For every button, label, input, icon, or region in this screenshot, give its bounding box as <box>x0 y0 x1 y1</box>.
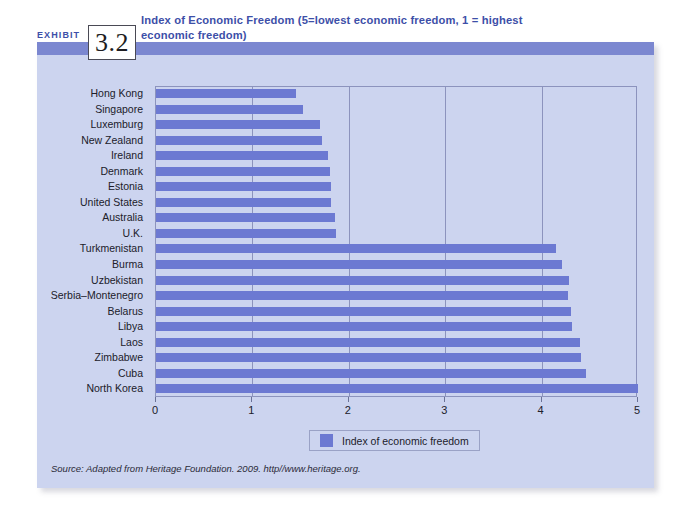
bar-row <box>156 320 636 336</box>
bar-row <box>156 258 636 274</box>
bar <box>156 120 320 129</box>
bar <box>156 276 569 285</box>
bar-row <box>156 274 636 290</box>
category-label: Belarus <box>37 304 149 320</box>
bar-row <box>156 367 636 383</box>
bar <box>156 322 572 331</box>
bar <box>156 307 571 316</box>
category-label: Hong Kong <box>37 86 149 102</box>
exhibit-panel: Hong KongSingaporeLuxemburgNew ZealandIr… <box>37 42 654 488</box>
bar <box>156 151 328 160</box>
category-label: Australia <box>37 210 149 226</box>
x-axis: 012345 <box>155 397 637 423</box>
category-label: Laos <box>37 335 149 351</box>
bar-rows <box>156 87 636 396</box>
x-tick-mark <box>541 397 542 402</box>
bar <box>156 384 638 393</box>
category-label: Serbia–Montenegro <box>37 288 149 304</box>
bar <box>156 229 336 238</box>
bar <box>156 353 581 362</box>
bar-row <box>156 242 636 258</box>
bar-row <box>156 165 636 181</box>
exhibit-number-text: 3.2 <box>95 30 129 56</box>
bar <box>156 105 303 114</box>
bar <box>156 260 562 269</box>
category-label: Cuba <box>37 366 149 382</box>
bar <box>156 338 580 347</box>
bar-row <box>156 134 636 150</box>
bar-row <box>156 149 636 165</box>
chart-title: Index of Economic Freedom (5=lowest econ… <box>141 13 561 43</box>
x-tick-mark <box>155 397 156 402</box>
exhibit-number-badge: 3.2 <box>88 25 136 60</box>
category-label: U.K. <box>37 226 149 242</box>
x-tick-mark <box>444 397 445 402</box>
bar <box>156 198 331 207</box>
bar-row <box>156 289 636 305</box>
legend-swatch-icon <box>320 434 333 447</box>
category-label: Estonia <box>37 179 149 195</box>
x-tick-label: 0 <box>152 404 158 416</box>
bar-row <box>156 103 636 119</box>
x-tick-label: 3 <box>441 404 447 416</box>
bar <box>156 244 556 253</box>
bar-row <box>156 305 636 321</box>
category-label: Turkmenistan <box>37 241 149 257</box>
category-axis-labels: Hong KongSingaporeLuxemburgNew ZealandIr… <box>37 86 149 397</box>
bar <box>156 167 330 176</box>
category-label: Uzbekistan <box>37 273 149 289</box>
bar-row <box>156 180 636 196</box>
category-label: United States <box>37 195 149 211</box>
x-tick-label: 4 <box>538 404 544 416</box>
bar-row <box>156 336 636 352</box>
x-tick-mark <box>251 397 252 402</box>
category-label: Ireland <box>37 148 149 164</box>
bar-row <box>156 382 636 398</box>
category-label: Libya <box>37 319 149 335</box>
bar <box>156 89 296 98</box>
bar <box>156 213 335 222</box>
exhibit-label: EXHIBIT <box>37 30 80 40</box>
category-label: Burma <box>37 257 149 273</box>
category-label: Luxemburg <box>37 117 149 133</box>
bar-row <box>156 87 636 103</box>
bar <box>156 136 322 145</box>
category-label: Denmark <box>37 164 149 180</box>
x-tick-label: 5 <box>634 404 640 416</box>
plot-area <box>155 86 637 397</box>
legend-label: Index of economic freedom <box>342 435 469 447</box>
chart-legend: Index of economic freedom <box>309 430 480 451</box>
bar-row <box>156 351 636 367</box>
category-label: North Korea <box>37 381 149 397</box>
category-label: New Zealand <box>37 133 149 149</box>
category-label: Singapore <box>37 102 149 118</box>
bar <box>156 369 586 378</box>
bar <box>156 182 331 191</box>
bar-row <box>156 196 636 212</box>
source-note: Source: Adapted from Heritage Foundation… <box>51 463 361 474</box>
bar-row <box>156 211 636 227</box>
x-tick-label: 1 <box>248 404 254 416</box>
x-tick-mark <box>637 397 638 402</box>
category-label: Zimbabwe <box>37 350 149 366</box>
x-tick-mark <box>348 397 349 402</box>
bar-row <box>156 227 636 243</box>
bar <box>156 291 568 300</box>
bar-row <box>156 118 636 134</box>
x-tick-label: 2 <box>345 404 351 416</box>
